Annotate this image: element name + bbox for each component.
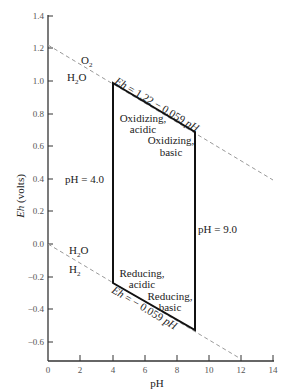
ph9-label: pH = 9.0 xyxy=(198,223,237,235)
o2-label: O2 xyxy=(81,54,93,69)
y-tick-labels: 1.4 1.2 1.0 0.8 0.6 0.4 0.2 0.0 −0.2 −0.… xyxy=(28,11,45,347)
y-tick-label: 0.2 xyxy=(33,206,44,216)
x-tick-label: 14 xyxy=(269,365,279,375)
y-tick-label: 1.2 xyxy=(33,43,44,53)
ph4-label: pH = 4.0 xyxy=(65,173,104,185)
x-tick-label: 6 xyxy=(143,365,148,375)
x-tick-label: 2 xyxy=(78,365,83,375)
y-tick-label: 1.0 xyxy=(33,76,45,86)
x-axis-title: pH xyxy=(150,377,164,389)
upper-equation-label: Eh = 1.22 − 0.059 pH xyxy=(112,74,202,134)
y-tick-label: 1.4 xyxy=(33,11,45,21)
y-tick-label: −0.2 xyxy=(28,272,44,282)
y-ticks xyxy=(48,16,53,342)
eh-ph-chart: 1.4 1.2 1.0 0.8 0.6 0.4 0.2 0.0 −0.2 −0.… xyxy=(0,0,286,392)
x-tick-label: 4 xyxy=(111,365,116,375)
h2o-upper-label: H2O xyxy=(67,71,86,86)
chart-svg: 1.4 1.2 1.0 0.8 0.6 0.4 0.2 0.0 −0.2 −0.… xyxy=(0,0,286,392)
y-tick-label: 0.0 xyxy=(33,239,45,249)
oxidizing-basic-label-line2: basic xyxy=(160,146,183,158)
x-tick-label: 8 xyxy=(175,365,180,375)
y-tick-label: 0.6 xyxy=(33,141,45,151)
h2-label: H2 xyxy=(69,263,81,278)
oxidizing-basic-label-line1: Oxidizing, xyxy=(148,134,195,146)
x-tick-label: 12 xyxy=(237,365,246,375)
y-axis-title: Eh (volts) xyxy=(14,174,27,219)
y-tick-label: −0.6 xyxy=(28,337,45,347)
x-tick-labels: 0 2 4 6 8 10 12 14 xyxy=(46,365,278,375)
x-tick-label: 0 xyxy=(46,365,51,375)
h2o-lower-label: H2O xyxy=(69,244,88,259)
y-tick-label: 0.8 xyxy=(33,109,45,119)
x-ticks xyxy=(80,355,273,361)
y-tick-label: 0.4 xyxy=(33,174,45,184)
reducing-acidic-label-line2: acidic xyxy=(129,278,155,290)
x-tick-label: 10 xyxy=(205,365,215,375)
y-tick-label: −0.4 xyxy=(28,304,45,314)
